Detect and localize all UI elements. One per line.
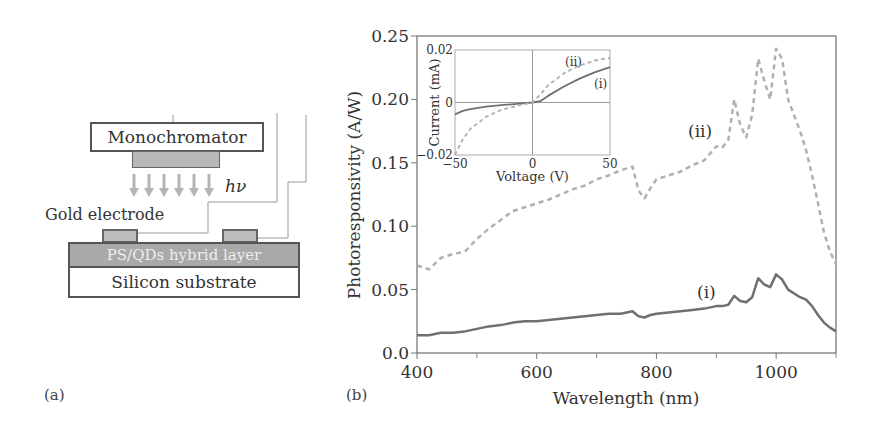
svg-text:50: 50	[602, 157, 617, 171]
svg-text:Voltage (V): Voltage (V)	[495, 169, 569, 184]
svg-text:600: 600	[520, 362, 552, 382]
svg-text:0.15: 0.15	[371, 153, 409, 173]
svg-text:0.20: 0.20	[371, 89, 409, 109]
svg-text:0: 0	[445, 96, 453, 110]
svg-text:Current (mA): Current (mA)	[427, 58, 442, 146]
svg-text:0.10: 0.10	[371, 216, 409, 236]
photoresponsivity-chart: 40060080010000.00.050.100.150.200.25 −50…	[0, 0, 880, 428]
svg-text:0.0: 0.0	[382, 343, 409, 363]
curve-label-ii: (ii)	[688, 121, 712, 141]
svg-text:(i): (i)	[594, 77, 607, 91]
curve-label-i: (i)	[697, 282, 716, 302]
y-axis-label: Photoresponsivity (A/W)	[344, 91, 364, 299]
svg-text:−0.02: −0.02	[416, 148, 453, 162]
x-axis-label: Wavelength (nm)	[553, 388, 700, 408]
series-i	[417, 274, 836, 335]
svg-text:0.02: 0.02	[426, 43, 453, 57]
svg-text:0.05: 0.05	[371, 280, 409, 300]
svg-text:1000: 1000	[755, 362, 798, 382]
svg-text:(ii): (ii)	[565, 55, 582, 69]
iv-inset: −50050−0.0200.02Voltage (V)Current (mA)(…	[416, 43, 617, 184]
svg-text:400: 400	[401, 362, 433, 382]
svg-text:0.25: 0.25	[371, 26, 409, 46]
svg-text:800: 800	[640, 362, 672, 382]
